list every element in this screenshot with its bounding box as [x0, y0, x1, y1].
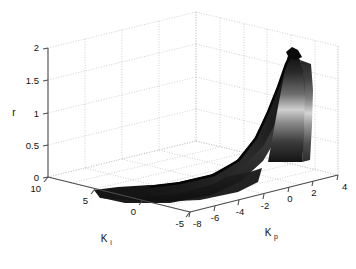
- z-tick-label: 1.5: [26, 75, 39, 86]
- surface-plot-3d: 2 1.5 1 0.5 0 10 5 0 -5 -8 -6 -4 -2 0 2 …: [0, 0, 356, 269]
- z-tick-label: 1: [34, 108, 39, 119]
- x-tick-label: -4: [236, 206, 244, 217]
- figure-panel: 2 1.5 1 0.5 0 10 5 0 -5 -8 -6 -4 -2 0 2 …: [0, 0, 356, 269]
- x-axis-label: K p: [265, 227, 278, 241]
- y-tick-label: 0: [131, 206, 136, 217]
- x-axis-label-base: K: [265, 227, 272, 238]
- y-tick-label: -5: [176, 218, 184, 229]
- z-tick-label: 0: [34, 172, 39, 183]
- z-tick-label: 0.5: [26, 140, 39, 151]
- z-tick-labels: 2 1.5 1 0.5 0: [26, 42, 39, 183]
- x-tick-label: -2: [261, 200, 269, 211]
- y-tick-label: 10: [30, 183, 41, 194]
- x-axis-label-sub: p: [274, 233, 278, 241]
- x-tick-label: -6: [211, 212, 219, 223]
- y-axis-label-base: K: [101, 233, 108, 244]
- y-axis-label-sub: i: [110, 239, 112, 246]
- y-axis-label: K i: [101, 233, 113, 246]
- z-axis-label: r: [12, 107, 16, 118]
- x-tick-label: 0: [287, 193, 292, 204]
- surface-mesh: [94, 47, 313, 203]
- x-tick-label: 2: [311, 187, 316, 198]
- x-tick-label: 4: [342, 181, 347, 192]
- y-tick-label: 5: [83, 195, 88, 206]
- z-tick-label: 2: [34, 42, 39, 53]
- x-tick-label: -8: [193, 218, 201, 229]
